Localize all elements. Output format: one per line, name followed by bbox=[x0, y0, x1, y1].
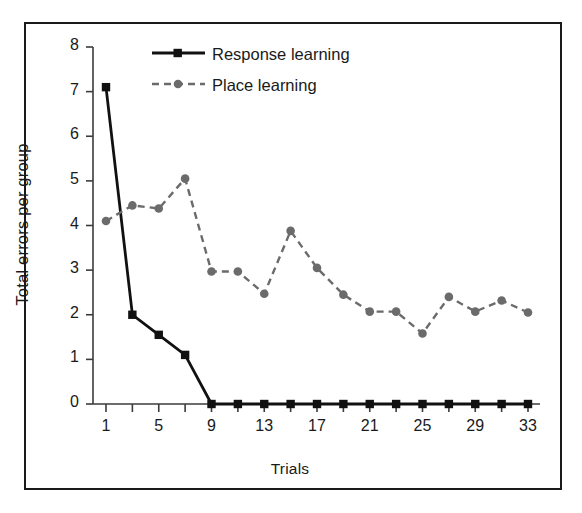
legend-label-response-learning: Response learning bbox=[212, 45, 350, 64]
data-series bbox=[102, 83, 533, 408]
y-tick-label: 1 bbox=[53, 348, 79, 366]
x-axis-title: Trials bbox=[190, 460, 390, 478]
y-tick-label: 4 bbox=[53, 215, 79, 233]
x-tick-label: 25 bbox=[408, 417, 438, 435]
y-tick-label: 5 bbox=[53, 170, 79, 188]
y-axis-title: Total errors per group bbox=[13, 115, 32, 335]
x-tick-label: 33 bbox=[513, 417, 543, 435]
x-tick-label: 5 bbox=[144, 417, 174, 435]
y-tick-label: 7 bbox=[53, 81, 79, 99]
y-tick-label: 2 bbox=[53, 304, 79, 322]
x-tick-label: 29 bbox=[460, 417, 490, 435]
x-tick-label: 21 bbox=[355, 417, 385, 435]
legend-label-place-learning: Place learning bbox=[212, 76, 317, 95]
y-tick-label: 8 bbox=[53, 36, 79, 54]
y-tick-label: 3 bbox=[53, 259, 79, 277]
x-tick-label: 13 bbox=[249, 417, 279, 435]
legend-marks bbox=[152, 49, 205, 88]
x-tick-label: 1 bbox=[91, 417, 121, 435]
axes bbox=[86, 47, 540, 412]
y-tick-label: 0 bbox=[53, 393, 79, 411]
x-tick-label: 9 bbox=[197, 417, 227, 435]
x-tick-label: 17 bbox=[302, 417, 332, 435]
y-tick-label: 6 bbox=[53, 125, 79, 143]
